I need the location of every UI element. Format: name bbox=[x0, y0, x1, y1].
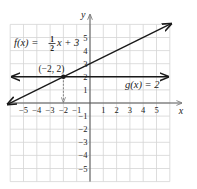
y-tick-label: −5 bbox=[78, 164, 87, 174]
intersection-point bbox=[61, 75, 66, 80]
x-tick-label: 4 bbox=[141, 105, 146, 115]
f-fraction-numerator: 1 bbox=[50, 35, 54, 44]
g-equation-label: g(x) = 2 bbox=[125, 79, 160, 91]
y-tick-label: −2 bbox=[78, 124, 87, 134]
x-tick-label: 3 bbox=[128, 105, 132, 115]
x-tick-label: −2 bbox=[59, 105, 68, 115]
x-tick-label: −5 bbox=[19, 105, 28, 115]
x-tick-label: −3 bbox=[46, 105, 55, 115]
x-tick-label: −4 bbox=[32, 105, 42, 115]
y-tick-label: 5 bbox=[83, 33, 87, 43]
point-label: (−2, 2) bbox=[38, 64, 64, 75]
x-tick-label: 5 bbox=[154, 105, 158, 115]
x-tick-label: 2 bbox=[114, 105, 118, 115]
y-tick-label: 1 bbox=[83, 85, 87, 95]
x-axis-label: x bbox=[178, 105, 184, 116]
f-equation-label: f(x) = bbox=[14, 37, 38, 49]
graph: xy−5−4−3−2−112345−5−4−3−2−112345(−2, 2)f… bbox=[0, 0, 197, 189]
y-tick-label: −3 bbox=[78, 137, 87, 147]
y-axis-label: y bbox=[80, 9, 86, 20]
x-tick-label: 1 bbox=[101, 105, 105, 115]
y-tick-label: −1 bbox=[78, 111, 87, 121]
f-fraction-denominator: 2 bbox=[50, 44, 54, 53]
f-equation-suffix: x + 3 bbox=[56, 37, 79, 48]
y-tick-label: −4 bbox=[78, 150, 88, 160]
